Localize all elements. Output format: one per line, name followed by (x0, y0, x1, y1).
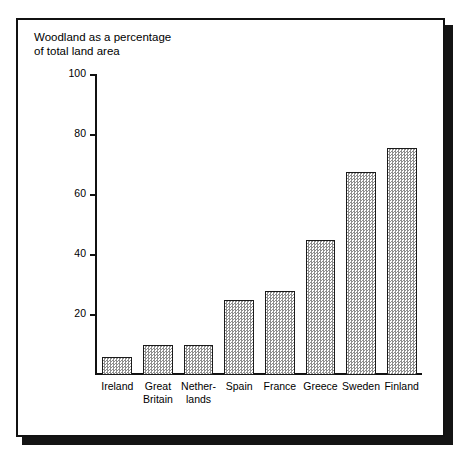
x-label-netherlands: Nether- lands (178, 380, 219, 406)
bar-spain[interactable] (224, 300, 254, 375)
y-tick-20: 20 (90, 314, 97, 316)
x-label-ireland: Ireland (97, 380, 138, 393)
y-tick-60: 60 (90, 194, 97, 196)
y-tick-label-60: 60 (74, 187, 86, 199)
bars-layer (97, 74, 422, 375)
x-label-spain: Spain (219, 380, 260, 393)
bar-greece[interactable] (306, 240, 336, 375)
x-axis-labels: Ireland Great Britain Nether- lands Spai… (97, 380, 422, 420)
figure-frame: Woodland as a percentage of total land a… (16, 18, 445, 437)
y-tick-label-20: 20 (74, 307, 86, 319)
x-label-great-britain: Great Britain (138, 380, 179, 406)
bar-finland[interactable] (387, 148, 417, 375)
bar-netherlands[interactable] (184, 345, 214, 375)
plot-area: 100 80 60 40 20 Ireland Great Britai (95, 74, 425, 394)
y-tick-40: 40 (90, 254, 97, 256)
bar-france[interactable] (265, 291, 295, 375)
x-label-finland: Finland (381, 380, 422, 393)
bar-sweden[interactable] (346, 172, 376, 375)
bar-great-britain[interactable] (143, 345, 173, 375)
y-tick-100: 100 (90, 74, 97, 76)
y-tick-label-80: 80 (74, 127, 86, 139)
x-label-sweden: Sweden (341, 380, 382, 393)
y-tick-label-40: 40 (74, 247, 86, 259)
bar-ireland[interactable] (102, 357, 132, 375)
y-tick-label-100: 100 (68, 67, 86, 79)
x-label-greece: Greece (300, 380, 341, 393)
y-tick-80: 80 (90, 134, 97, 136)
chart-title: Woodland as a percentage of total land a… (34, 30, 294, 58)
x-label-france: France (260, 380, 301, 393)
